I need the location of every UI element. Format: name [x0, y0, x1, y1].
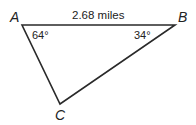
angle-a-label: 64°: [32, 29, 49, 41]
triangle-diagram: A B C 2.68 miles 64° 34°: [0, 0, 196, 125]
side-ab-length: 2.68 miles: [72, 9, 125, 21]
vertex-label-b: B: [178, 9, 187, 25]
angle-b-label: 34°: [134, 29, 151, 41]
vertex-label-c: C: [55, 107, 66, 123]
vertex-label-a: A: [9, 9, 19, 25]
